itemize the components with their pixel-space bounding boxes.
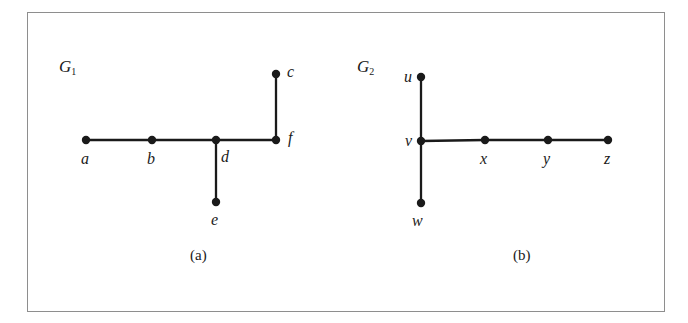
graph-node-v — [417, 137, 425, 145]
graph-node-f — [272, 136, 280, 144]
node-label-c: c — [287, 64, 294, 80]
node-label-a: a — [81, 151, 89, 167]
graph-title-G2: G2 — [357, 58, 374, 75]
graph-node-a — [82, 136, 90, 144]
graph-node-c — [272, 70, 280, 78]
graph-node-y — [544, 136, 552, 144]
node-label-w: w — [412, 213, 423, 229]
node-label-v: v — [405, 133, 412, 149]
node-label-f: f — [288, 130, 292, 146]
node-label-x: x — [480, 151, 487, 167]
graph-node-b — [148, 136, 156, 144]
graph-node-d — [212, 136, 220, 144]
graph-node-z — [604, 136, 612, 144]
graph-edge-v-x — [421, 140, 485, 141]
graph-title-G1: G1 — [59, 58, 76, 75]
graph-title-letter: G — [59, 57, 71, 76]
node-label-z: z — [604, 151, 610, 167]
nodes-layer — [82, 70, 612, 207]
node-label-e: e — [211, 212, 218, 228]
graph-node-e — [212, 198, 220, 206]
panel-caption-panel-a: (a) — [190, 248, 207, 263]
panel-caption-panel-b: (b) — [513, 248, 531, 263]
node-label-d: d — [221, 149, 229, 165]
node-label-u: u — [404, 69, 412, 85]
graph-title-letter: G — [357, 57, 369, 76]
edges-layer — [86, 74, 608, 203]
graph-node-x — [481, 136, 489, 144]
graph-node-w — [417, 199, 425, 207]
figure-page: abdfceG1(a)uvwxyzG2(b) — [0, 0, 688, 323]
graph-node-u — [417, 73, 425, 81]
graph-title-subscript: 1 — [71, 66, 76, 77]
node-label-b: b — [147, 151, 155, 167]
graph-canvas — [0, 0, 688, 323]
node-label-y: y — [543, 151, 550, 167]
graph-title-subscript: 2 — [369, 66, 374, 77]
